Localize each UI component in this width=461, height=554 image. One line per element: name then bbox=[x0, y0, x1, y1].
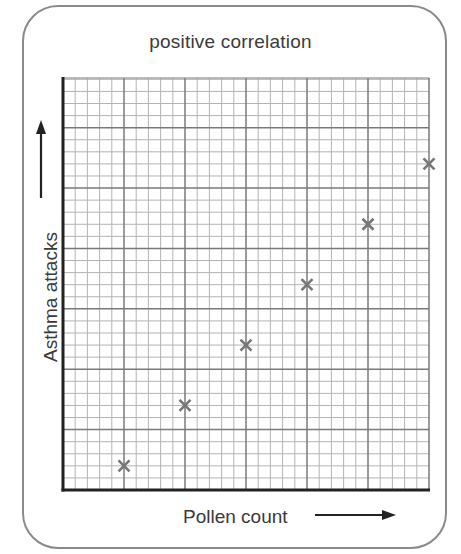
y-arrow-head-icon bbox=[36, 120, 46, 134]
scatter-plot bbox=[0, 0, 461, 554]
axis-arrows bbox=[36, 120, 396, 520]
x-axis-label: Pollen count bbox=[183, 506, 288, 528]
data-markers bbox=[119, 158, 435, 471]
y-axis-label: Asthma attacks bbox=[40, 232, 62, 362]
x-arrow-head-icon bbox=[382, 510, 396, 520]
